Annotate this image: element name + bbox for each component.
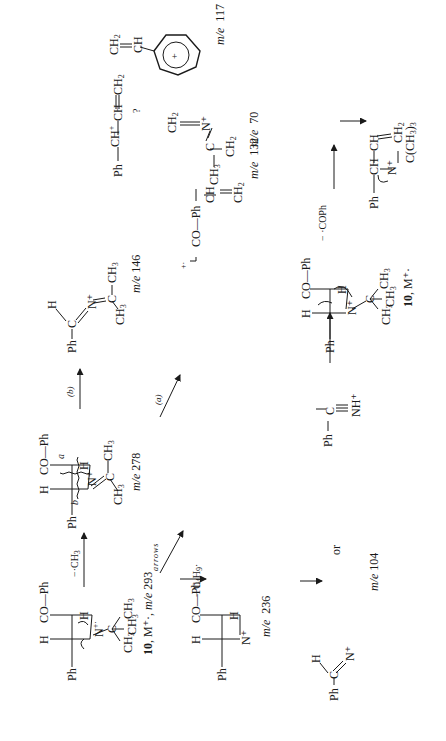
- group-nh-plus: NH⁺: [350, 393, 362, 417]
- group-c: C: [106, 295, 118, 303]
- group-n-plus: N⁺: [86, 471, 98, 486]
- group-ch3: CH3: [114, 304, 128, 325]
- group-ch: CH: [204, 186, 216, 203]
- group-ch2: CH2: [112, 74, 126, 95]
- group-ph: Ph: [368, 196, 380, 209]
- group-ph: Ph: [324, 340, 336, 353]
- arrow-label-minus-coph: − ·COPh: [318, 205, 328, 241]
- group-ch3: CH3: [380, 304, 394, 325]
- group-ch3: CH3: [102, 440, 116, 461]
- group-ph: Ph: [66, 668, 78, 681]
- group-c: C: [328, 671, 340, 679]
- bond-lines: [0, 0, 446, 741]
- group-ch3: CH3: [208, 164, 222, 185]
- mz-label-236: m/e 236: [260, 596, 272, 637]
- group-h: H: [78, 611, 90, 620]
- group-c: C: [104, 473, 116, 481]
- group-ch3: CH3: [122, 598, 136, 619]
- group-ch: CH: [368, 158, 380, 175]
- group-h: H: [300, 309, 312, 318]
- group-cooph: CO—Ph: [38, 582, 50, 623]
- group-ch2: CH2: [232, 182, 246, 203]
- group-n-plus: N⁺: [386, 160, 398, 175]
- group-ch: CH: [132, 36, 144, 53]
- mz-label-278: m/e 278: [130, 453, 142, 491]
- group-ph: Ph: [322, 434, 334, 447]
- group-h: H: [46, 300, 58, 309]
- group-cooph: CO—Ph: [190, 582, 202, 623]
- group-h: H: [310, 654, 322, 663]
- group-h: H: [190, 635, 202, 644]
- group-c: C: [324, 407, 336, 415]
- mz-label-146: m/e 146: [130, 255, 142, 293]
- cleavage-label-a: a: [56, 454, 66, 459]
- arrow-label-a: (a): [154, 395, 163, 406]
- cleavage-label-b: b: [70, 500, 80, 505]
- group-n: N+·: [92, 621, 105, 637]
- group-c: C: [106, 625, 118, 633]
- group-ch: CH: [368, 134, 380, 151]
- group-ph: Ph: [328, 688, 340, 701]
- group-ch3: CH3: [112, 484, 126, 505]
- group-h: H: [78, 461, 90, 470]
- group-n-plus: N⁺: [344, 646, 356, 661]
- group-c: C: [66, 320, 78, 328]
- mz-label-104: m/e 104: [368, 553, 380, 591]
- group-n-plus: N⁺: [200, 116, 212, 131]
- compound-label-10: 10, M⁺·, m/e 293: [142, 572, 154, 655]
- group-h: H: [38, 485, 50, 494]
- group-cooph: CO—Ph: [300, 258, 312, 299]
- group-n-plus: N⁺: [240, 630, 252, 645]
- group-n-plus: N⁺: [86, 294, 98, 309]
- compound-label-10: 10, M⁺·: [402, 268, 414, 307]
- group-c: C: [364, 295, 376, 303]
- group-ch3: CH3: [384, 286, 398, 307]
- group-ch3: CH3: [122, 632, 136, 653]
- group-c: C: [204, 143, 216, 151]
- group-n-plus: N⁺: [346, 300, 358, 315]
- arrow-label-arrows: arrows: [152, 543, 160, 571]
- arrow-label-b: (b): [66, 387, 75, 398]
- group-ctbu: C(CH3)3: [404, 122, 418, 163]
- group-h: H: [336, 285, 348, 294]
- group-cooph: CO—Ph: [38, 434, 50, 475]
- group-ph: Ph: [66, 516, 78, 529]
- charge-label: +·: [180, 262, 188, 269]
- group-cooph: CO—Ph: [190, 206, 202, 247]
- group-ph: Ph: [216, 668, 228, 681]
- group-h: H: [38, 635, 50, 644]
- group-ch2: CH2: [108, 34, 122, 55]
- fragmentation-scheme: Ph H CO—Ph H N+· C CH3 CH3 CH3 10, M⁺·, …: [0, 0, 446, 741]
- group-ph: Ph: [66, 340, 78, 353]
- group-ph: Ph: [112, 164, 124, 177]
- mz-label-117: m/e 117: [214, 4, 226, 45]
- group-ch2: CH2: [224, 136, 238, 157]
- group-ch3: CH3: [378, 268, 392, 289]
- ring-plus-charge: +: [170, 53, 180, 59]
- arrow-label-minus-ch3: −·CH3: [70, 550, 82, 577]
- group-ch2: CH2: [166, 112, 180, 133]
- group-h: H: [228, 611, 240, 620]
- arrow-label-question: ?: [132, 109, 142, 113]
- group-ch: CH: [112, 104, 124, 121]
- group-ch-plus: CH+: [108, 126, 121, 147]
- or-label: or: [330, 545, 342, 555]
- group-ch3: CH3: [106, 262, 120, 283]
- mz-label-132: m/e 132: [248, 138, 260, 179]
